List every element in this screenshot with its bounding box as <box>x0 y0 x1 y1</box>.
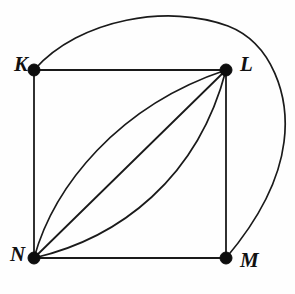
edge-n-l-straight <box>34 70 226 258</box>
vertex-label-k: K <box>13 52 30 76</box>
vertex-dot-m <box>220 252 232 264</box>
vertex-label-l: L <box>239 52 253 76</box>
vertex-dot-l <box>220 64 232 76</box>
vertex-label-m: M <box>239 248 260 272</box>
graph-canvas: K L M N <box>0 0 295 294</box>
vertex-dot-k <box>28 64 40 76</box>
vertex-dot-n <box>28 252 40 264</box>
vertex-label-n: N <box>9 242 26 266</box>
graph-figure: K L M N <box>0 0 295 294</box>
